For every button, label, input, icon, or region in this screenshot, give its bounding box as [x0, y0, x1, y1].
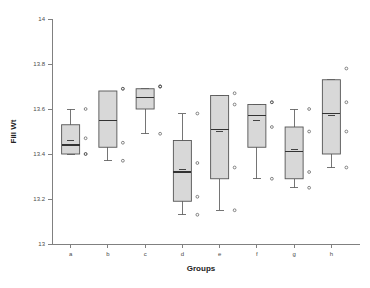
- box-a: [62, 125, 80, 154]
- box-group-f: [248, 101, 273, 180]
- y-tick-label-1: 13.2: [33, 196, 45, 202]
- plot-canvas: 1313.213.413.613.814abcdefghGroupsFill W…: [0, 0, 370, 288]
- data-point-f-3: [270, 177, 273, 180]
- data-point-a-0: [84, 108, 87, 111]
- x-tick-label-c: c: [144, 251, 147, 257]
- box-group-b: [99, 87, 124, 162]
- box-group-c: [136, 85, 161, 135]
- y-tick-label-0: 13: [38, 241, 45, 247]
- data-point-d-3: [196, 213, 199, 216]
- data-point-f-1: [270, 101, 273, 104]
- box-c: [136, 89, 154, 109]
- x-tick-label-a: a: [69, 251, 73, 257]
- y-tick-label-4: 13.8: [33, 61, 45, 67]
- box-f: [248, 105, 266, 148]
- data-point-c-3: [159, 132, 162, 135]
- box-group-a: [62, 108, 87, 156]
- box-group-d: [173, 112, 198, 216]
- y-tick-label-3: 13.6: [33, 106, 45, 112]
- data-point-g-2: [308, 171, 311, 174]
- data-point-f-2: [270, 126, 273, 129]
- data-point-d-0: [196, 112, 199, 115]
- x-tick-label-b: b: [106, 251, 110, 257]
- data-point-a-3: [84, 153, 87, 156]
- x-tick-label-h: h: [330, 251, 333, 257]
- data-point-g-0: [308, 108, 311, 111]
- data-point-b-3: [121, 159, 124, 162]
- box-g: [285, 127, 303, 179]
- data-point-h-0: [345, 67, 348, 70]
- y-axis-title: Fill Wt: [9, 119, 18, 143]
- data-point-e-1: [233, 103, 236, 106]
- y-tick-label-5: 14: [38, 16, 45, 22]
- data-point-h-3: [345, 166, 348, 169]
- box-e: [211, 96, 229, 179]
- x-tick-label-e: e: [218, 251, 222, 257]
- data-point-b-1: [121, 87, 124, 90]
- x-tick-label-g: g: [292, 251, 295, 257]
- data-point-h-2: [345, 130, 348, 133]
- box-b: [99, 91, 117, 147]
- x-tick-label-f: f: [256, 251, 258, 257]
- data-point-d-2: [196, 195, 199, 198]
- data-point-b-2: [121, 141, 124, 144]
- box-group-g: [285, 108, 310, 190]
- data-point-g-3: [308, 186, 311, 189]
- box-group-e: [211, 92, 236, 212]
- data-point-d-1: [196, 162, 199, 165]
- data-point-a-1: [84, 137, 87, 140]
- data-point-h-1: [345, 101, 348, 104]
- data-point-e-0: [233, 92, 236, 95]
- x-axis-title: Groups: [187, 264, 216, 273]
- data-point-g-1: [308, 130, 311, 133]
- data-point-e-2: [233, 166, 236, 169]
- data-point-c-2: [159, 85, 162, 88]
- box-h: [322, 80, 340, 154]
- box-d: [173, 141, 191, 202]
- data-point-e-3: [233, 209, 236, 212]
- box-group-h: [322, 67, 347, 169]
- y-tick-label-2: 13.4: [33, 151, 45, 157]
- box-plot-chart: 1313.213.413.613.814abcdefghGroupsFill W…: [0, 0, 370, 288]
- x-tick-label-d: d: [181, 251, 184, 257]
